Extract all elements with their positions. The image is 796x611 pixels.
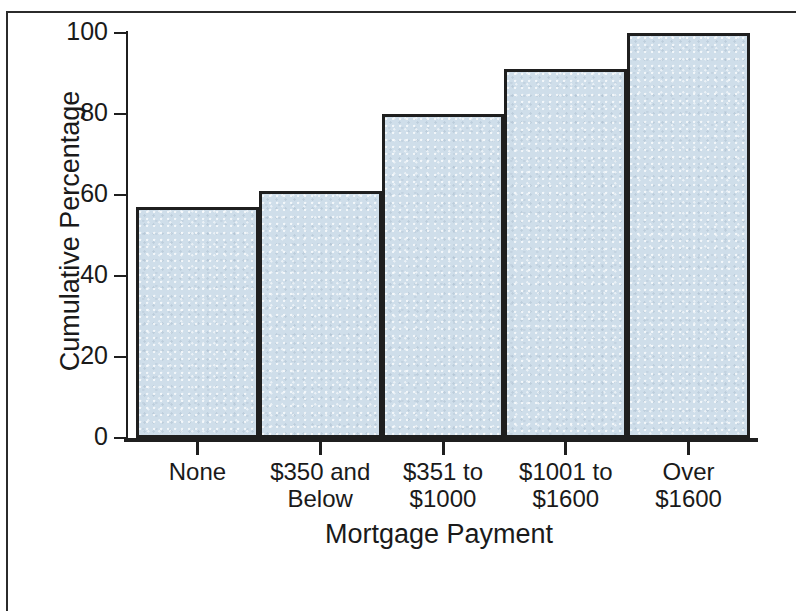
x-axis-tick-label: Over $1600 [621, 458, 756, 512]
x-axis-tick-label: $351 to $1000 [376, 458, 511, 512]
bar [504, 69, 627, 438]
y-axis-tick [114, 113, 126, 115]
x-axis-tick-label: $350 and Below [253, 458, 388, 512]
y-axis-tick [114, 194, 126, 196]
bar [627, 33, 750, 438]
y-axis-tick [114, 275, 126, 277]
x-axis-tick [687, 442, 690, 455]
x-axis-tick [564, 442, 567, 455]
x-axis-tick [442, 442, 445, 455]
y-axis-line [126, 31, 128, 440]
y-axis-tick [114, 356, 126, 358]
bar [382, 114, 505, 438]
x-axis-tick-label: None [130, 458, 265, 485]
y-axis-title: Cumulative Percentage [55, 21, 85, 441]
y-axis-tick [114, 437, 126, 439]
x-axis-tick-label: $1001 to $1600 [498, 458, 633, 512]
x-axis-tick [196, 442, 199, 455]
x-axis-tick [319, 442, 322, 455]
bar [259, 191, 382, 438]
x-axis-title: Mortgage Payment [126, 519, 752, 549]
bar [136, 207, 259, 438]
y-axis-tick [114, 32, 126, 34]
